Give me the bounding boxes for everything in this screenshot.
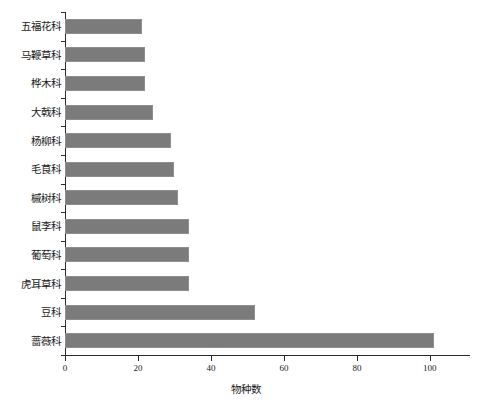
y-axis-tick: [61, 212, 65, 213]
y-axis-tick: [61, 298, 65, 299]
bar-chart-figure: 020406080100 五福花科马鞭草科桦木科大戟科杨柳科毛茛科槭树科鼠李科葡…: [0, 0, 492, 409]
y-axis-tick-label: 豆科: [41, 307, 61, 318]
bar[interactable]: [65, 19, 142, 34]
y-axis-tick-label: 葡萄科: [31, 249, 61, 260]
plot-area: 020406080100: [65, 12, 470, 355]
y-axis-tick-label: 大戟科: [31, 107, 61, 118]
y-axis-tick: [61, 41, 65, 42]
y-axis-tick: [61, 69, 65, 70]
bar[interactable]: [65, 105, 153, 120]
y-axis-tick-label: 杨柳科: [31, 135, 61, 146]
y-axis-tick-label: 桦木科: [31, 78, 61, 89]
y-axis-line: [65, 12, 66, 355]
y-axis-tick: [61, 241, 65, 242]
x-axis-tick: [138, 356, 139, 361]
y-axis-tick: [61, 326, 65, 327]
y-axis-tick: [61, 184, 65, 185]
y-axis-tick-label: 马鞭草科: [21, 49, 61, 60]
x-axis-tick: [357, 356, 358, 361]
y-axis-tick-label: 毛茛科: [31, 164, 61, 175]
bar[interactable]: [65, 162, 174, 177]
bar[interactable]: [65, 333, 434, 348]
x-axis-tick: [430, 356, 431, 361]
x-axis-tick-label: 40: [206, 363, 215, 373]
x-axis-tick-label: 60: [279, 363, 288, 373]
y-axis-tick-label: 鼠李科: [31, 221, 61, 232]
y-axis-tick: [61, 126, 65, 127]
bar[interactable]: [65, 219, 189, 234]
x-axis-tick-label: 0: [63, 363, 68, 373]
x-axis-tick: [65, 356, 66, 361]
bar[interactable]: [65, 247, 189, 262]
y-axis-tick-label: 槭树科: [31, 192, 61, 203]
y-axis-tick: [61, 269, 65, 270]
y-axis-tick-label: 五福花科: [21, 21, 61, 32]
x-axis-tick: [284, 356, 285, 361]
y-axis-tick: [61, 12, 65, 13]
bar[interactable]: [65, 76, 145, 91]
bar[interactable]: [65, 305, 255, 320]
x-axis-tick: [211, 356, 212, 361]
y-axis-tick: [61, 98, 65, 99]
y-axis-tick: [61, 155, 65, 156]
bar[interactable]: [65, 190, 178, 205]
bar[interactable]: [65, 133, 171, 148]
bar[interactable]: [65, 276, 189, 291]
y-axis-tick-label: 虎耳草科: [21, 278, 61, 289]
x-axis-tick-label: 20: [133, 363, 142, 373]
x-axis-tick-label: 80: [352, 363, 361, 373]
bar[interactable]: [65, 47, 145, 62]
y-axis-tick-label: 蔷薇科: [31, 335, 61, 346]
x-axis-line: [65, 355, 470, 356]
x-axis-title: 物种数: [0, 381, 492, 396]
x-axis-tick-label: 100: [423, 363, 437, 373]
